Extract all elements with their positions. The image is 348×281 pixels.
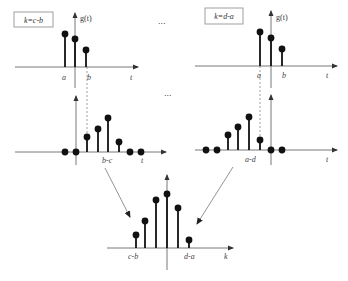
axis-tick-label: b-c <box>102 156 113 165</box>
diagram-svg: k=c-bg(t)abtk=d-ag(t)abtb-cta-dtc-bd-ak … <box>0 0 348 281</box>
stem-dot <box>95 126 102 133</box>
axis-tick-label: b <box>87 73 91 82</box>
stem-dot <box>142 218 149 225</box>
transition-arrow <box>105 168 130 217</box>
stem-dot <box>164 191 171 198</box>
zero-sample-dot <box>214 147 221 154</box>
axis-tick-label: a <box>62 73 66 82</box>
stem-dot <box>235 124 242 131</box>
axis-tick-label: b <box>282 71 286 80</box>
stem-dot <box>105 115 112 122</box>
stem-dot <box>153 197 160 204</box>
stem-dot <box>116 139 123 146</box>
axis-tick-label: t <box>130 73 133 82</box>
stem-dot <box>257 137 264 144</box>
axis-tick-label: c-b <box>128 252 138 261</box>
axis-tick-label: k <box>224 252 228 261</box>
axis-tick-label: d-a <box>184 252 195 261</box>
stem-dot <box>62 31 69 38</box>
panels: k=c-bg(t)abtk=d-ag(t)abtb-cta-dtc-bd-ak <box>14 8 337 270</box>
axis-tick-label: a <box>257 71 261 80</box>
panel-bottom: c-bd-ak <box>107 175 233 270</box>
zero-sample-dot <box>203 147 210 154</box>
zero-sample-dot <box>73 149 80 156</box>
stem-dot <box>84 134 91 141</box>
y-axis-label: g(t) <box>80 14 92 23</box>
stem-dot <box>225 132 232 139</box>
stem-dot <box>268 35 275 42</box>
zero-sample-dot <box>127 149 134 156</box>
shift-label-text: k=c-b <box>24 16 43 25</box>
stem-dot <box>83 47 90 54</box>
zero-sample-dot <box>268 147 275 154</box>
panel-middle-left: b-ct <box>15 96 166 165</box>
panel-middle-right: a-dt <box>195 95 337 165</box>
axis-tick-label: t <box>141 156 144 165</box>
zero-sample-dot <box>279 147 286 154</box>
axis-tick-label: a-d <box>245 155 257 164</box>
zero-sample-dot <box>62 149 69 156</box>
stem-dot <box>246 114 253 121</box>
y-axis-label: g(t) <box>276 13 288 22</box>
stem-dot <box>175 205 182 212</box>
dashed-guides <box>87 66 260 139</box>
panel-top-right: k=d-ag(t)abt <box>195 8 337 88</box>
stem-dot <box>133 232 140 239</box>
ellipsis: ... <box>158 16 166 26</box>
axis-tick-label: t <box>326 155 329 164</box>
stem-dot <box>72 36 79 43</box>
zero-sample-dot <box>138 149 145 156</box>
panel-top-left: k=c-bg(t)abt <box>14 12 138 88</box>
stem-dot <box>186 237 193 244</box>
stem-dot <box>279 46 286 53</box>
ellipsis: ... <box>164 88 172 98</box>
correlation-diagram: k=c-bg(t)abtk=d-ag(t)abtb-cta-dtc-bd-ak … <box>0 0 348 281</box>
axis-tick-label: t <box>326 71 329 80</box>
stem-dot <box>257 29 264 36</box>
shift-label-text: k=d-a <box>214 12 234 21</box>
transition-arrow <box>197 167 233 224</box>
ellipses: ...... <box>158 16 172 98</box>
